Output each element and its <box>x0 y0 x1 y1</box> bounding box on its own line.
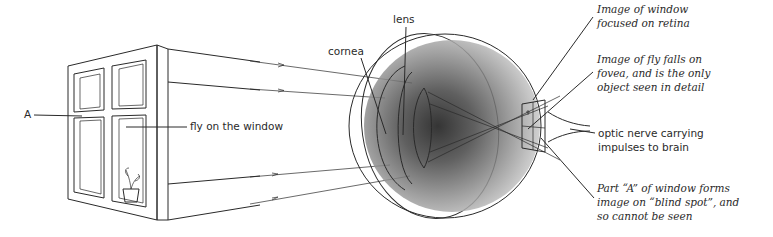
plant-pot-icon <box>123 168 140 202</box>
label-cornea: cornea <box>328 45 364 57</box>
label-fly-image-fovea: Image of fly falls on fovea, and is the … <box>596 53 714 93</box>
window <box>68 45 260 220</box>
label-blind-spot: Part “A” of window forms image on “blind… <box>596 182 743 222</box>
optic-nerve <box>548 112 590 142</box>
label-a: A <box>24 108 32 120</box>
vitreous-humour <box>364 40 540 212</box>
label-optic-nerve: optic nerve carrying impulses to brain <box>598 127 707 153</box>
label-lens: lens <box>393 13 415 25</box>
label-fly-on-window: fly on the window <box>190 120 283 132</box>
eye-diagram: A fly on the window <box>0 0 773 237</box>
label-window-image: Image of window focused on retina <box>596 3 692 29</box>
eyeball <box>349 24 590 227</box>
